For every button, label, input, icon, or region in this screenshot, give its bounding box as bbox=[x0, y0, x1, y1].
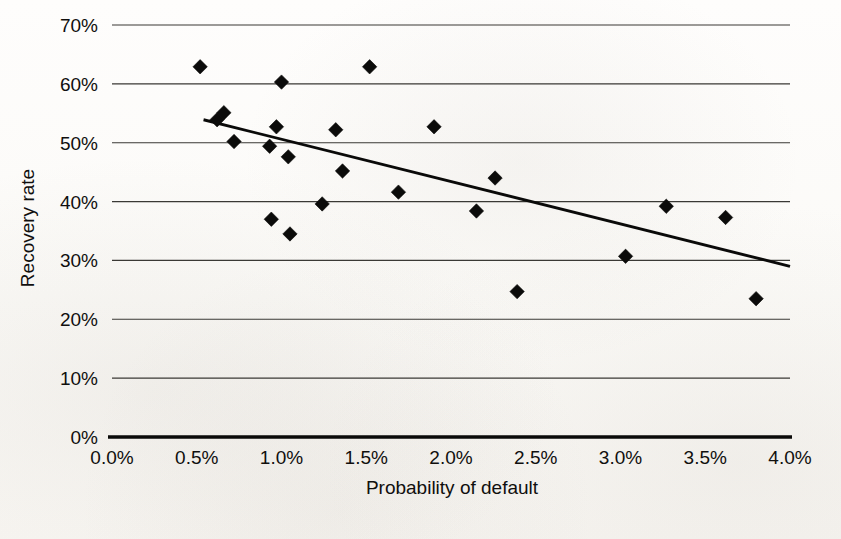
x-axis-tick-label: 1.0% bbox=[260, 447, 303, 468]
data-point-marker bbox=[315, 197, 329, 211]
y-axis-tick-label: 10% bbox=[60, 368, 98, 389]
trend-line bbox=[204, 120, 790, 267]
x-axis-tick-label: 3.0% bbox=[599, 447, 642, 468]
data-point-marker bbox=[335, 164, 349, 178]
y-axis-tick-label: 20% bbox=[60, 309, 98, 330]
data-point-marker bbox=[391, 185, 405, 199]
data-point-marker bbox=[749, 291, 763, 305]
x-axis-tick-label: 3.5% bbox=[684, 447, 727, 468]
x-axis-tick-label: 0.0% bbox=[90, 447, 133, 468]
y-axis-title: Recovery rate bbox=[17, 169, 38, 287]
scatter-chart: 0%10%20%30%40%50%60%70% 0.0%0.5%1.0%1.5%… bbox=[0, 0, 841, 539]
data-point-marker bbox=[362, 60, 376, 74]
data-point-marker bbox=[329, 123, 343, 137]
data-point-marker bbox=[227, 134, 241, 148]
y-axis-tick-label: 50% bbox=[60, 133, 98, 154]
y-axis-tick-labels: 0%10%20%30%40%50%60%70% bbox=[60, 15, 98, 448]
x-axis-tick-label: 4.0% bbox=[768, 447, 811, 468]
data-point-marker bbox=[262, 139, 276, 153]
x-axis-tick-label: 0.5% bbox=[175, 447, 218, 468]
data-points bbox=[193, 60, 763, 306]
data-point-marker bbox=[264, 212, 278, 226]
gridlines bbox=[112, 25, 790, 378]
x-axis-tick-label: 2.5% bbox=[514, 447, 557, 468]
y-axis-tick-label: 30% bbox=[60, 250, 98, 271]
data-point-marker bbox=[193, 60, 207, 74]
x-axis-tick-label: 1.5% bbox=[345, 447, 388, 468]
x-axis-tick-labels: 0.0%0.5%1.0%1.5%2.0%2.5%3.0%3.5%4.0% bbox=[90, 447, 811, 468]
data-point-marker bbox=[274, 75, 288, 89]
data-point-marker bbox=[281, 150, 295, 164]
data-point-marker bbox=[510, 284, 524, 298]
y-axis-tick-label: 60% bbox=[60, 74, 98, 95]
data-point-marker bbox=[618, 249, 632, 263]
data-point-marker bbox=[469, 204, 483, 218]
trend-line-segment bbox=[204, 120, 790, 267]
y-axis-tick-label: 40% bbox=[60, 192, 98, 213]
x-axis-tick-label: 2.0% bbox=[429, 447, 472, 468]
y-axis-tick-label: 0% bbox=[71, 427, 99, 448]
data-point-marker bbox=[718, 210, 732, 224]
y-axis-tick-label: 70% bbox=[60, 15, 98, 36]
chart-page: 0%10%20%30%40%50%60%70% 0.0%0.5%1.0%1.5%… bbox=[0, 0, 841, 539]
data-point-marker bbox=[283, 227, 297, 241]
x-axis-title: Probability of default bbox=[366, 477, 539, 498]
data-point-marker bbox=[488, 171, 502, 185]
data-point-marker bbox=[269, 120, 283, 134]
data-point-marker bbox=[427, 120, 441, 134]
